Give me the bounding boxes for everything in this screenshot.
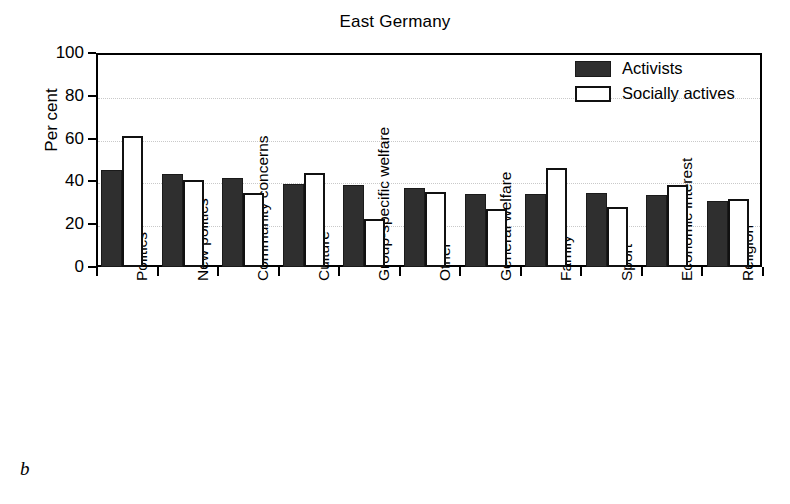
y-axis-tick-mark — [88, 52, 96, 54]
legend-label: Socially actives — [622, 82, 735, 105]
x-axis-tick-mark — [217, 267, 219, 276]
y-axis-title: Per cent — [42, 60, 62, 180]
panel-letter: b — [20, 458, 30, 480]
bar-activists — [707, 201, 728, 267]
bar-socially-actives — [728, 199, 749, 267]
bar-activists — [162, 174, 183, 267]
x-axis-tick-mark — [278, 267, 280, 276]
bar-socially-actives — [243, 193, 264, 267]
bar-activists — [465, 194, 486, 267]
y-axis-tick-mark — [88, 223, 96, 225]
y-axis-tick-label: 60 — [38, 130, 84, 147]
bar-socially-actives — [546, 168, 567, 268]
legend-swatch-socially-actives — [575, 86, 611, 102]
legend-swatch-activists — [575, 61, 611, 77]
y-axis-tick-label: 40 — [38, 172, 84, 189]
x-axis-tick-mark — [338, 267, 340, 276]
x-axis-tick-mark — [399, 267, 401, 276]
x-axis-tick-mark — [96, 267, 98, 276]
y-axis-tick-mark — [88, 266, 96, 268]
x-axis-tick-mark — [701, 267, 703, 276]
y-axis-tick-label: 100 — [38, 44, 84, 61]
bar-activists — [586, 193, 607, 267]
y-axis-tick-mark — [88, 95, 96, 97]
bar-activists — [646, 195, 667, 267]
bar-socially-actives — [667, 185, 688, 267]
legend-label: Activists — [622, 57, 683, 80]
bar-activists — [404, 188, 425, 267]
chart-title: East Germany — [0, 12, 790, 32]
x-axis-tick-mark — [641, 267, 643, 276]
x-axis-tick-mark — [762, 267, 764, 276]
bar-socially-actives — [122, 136, 143, 267]
y-axis-tick-label: 0 — [38, 258, 84, 275]
x-axis-tick-mark — [520, 267, 522, 276]
bar-socially-actives — [607, 207, 628, 267]
legend-item: Activists — [575, 57, 760, 80]
x-axis-tick-mark — [580, 267, 582, 276]
bar-activists — [283, 184, 304, 267]
bar-socially-actives — [486, 209, 507, 267]
bar-socially-actives — [183, 180, 204, 267]
x-axis-tick-mark — [157, 267, 159, 276]
bar-socially-actives — [304, 173, 325, 267]
figure-panel: East Germany b Per cent 020406080100 Pol… — [0, 0, 790, 504]
bar-socially-actives — [425, 192, 446, 267]
x-axis-tick-mark — [459, 267, 461, 276]
bar-activists — [343, 185, 364, 267]
bar-activists — [525, 194, 546, 267]
y-axis-tick-label: 80 — [38, 87, 84, 104]
bar-activists — [101, 170, 122, 267]
y-axis-tick-label: 20 — [38, 215, 84, 232]
bar-activists — [222, 178, 243, 267]
legend: ActivistsSocially actives — [575, 57, 760, 107]
legend-item: Socially actives — [575, 82, 760, 105]
y-axis-tick-mark — [88, 138, 96, 140]
y-axis-tick-mark — [88, 180, 96, 182]
bar-socially-actives — [364, 219, 385, 267]
